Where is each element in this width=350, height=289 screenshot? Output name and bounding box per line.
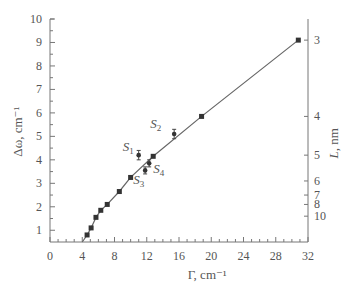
data-points: S1S2S3S4 — [85, 38, 301, 238]
x-tick-label: 28 — [270, 249, 282, 263]
point-label: S2 — [150, 116, 161, 133]
square-marker — [151, 154, 156, 159]
y-tick-label: 3 — [36, 176, 42, 190]
square-marker — [117, 189, 122, 194]
fit-line — [82, 40, 298, 242]
y-tick-label: 2 — [36, 200, 42, 214]
x-tick-label: 0 — [47, 249, 53, 263]
x-tick-label: 12 — [141, 249, 153, 263]
point-label: S1 — [123, 139, 134, 156]
circle-marker — [172, 132, 177, 137]
y2-tick-label: 4 — [314, 109, 320, 123]
square-marker — [89, 225, 94, 230]
square-marker — [85, 232, 90, 237]
y-tick-label: 7 — [36, 82, 42, 96]
square-marker — [105, 202, 110, 207]
x-tick-label: 32 — [302, 249, 314, 263]
x-tick-label: 4 — [79, 249, 85, 263]
x-tick-label: 20 — [205, 249, 217, 263]
circle-marker — [136, 153, 141, 158]
square-marker — [296, 38, 301, 43]
square-marker — [93, 215, 98, 220]
y2-tick-label: 5 — [314, 148, 320, 162]
y-tick-label: 1 — [36, 223, 42, 237]
y-tick-label: 10 — [30, 12, 42, 26]
y-tick-label: 8 — [36, 59, 42, 73]
point-label: S3 — [133, 172, 145, 189]
x-axis-label: Γ, cm⁻¹ — [188, 267, 227, 282]
y-tick-label: 5 — [36, 129, 42, 143]
y2-tick-label: 10 — [314, 209, 326, 223]
y-tick-label: 4 — [36, 153, 42, 167]
circle-marker — [147, 161, 152, 166]
y2-tick-label: 3 — [314, 33, 320, 47]
y-tick-label: 6 — [36, 106, 42, 120]
point-label: S4 — [153, 161, 165, 178]
y-axis-label: Δω, cm⁻¹ — [10, 107, 25, 157]
x-tick-label: 16 — [173, 249, 185, 263]
x-tick-label: 8 — [112, 249, 118, 263]
y-tick-label: 9 — [36, 35, 42, 49]
circle-marker — [143, 168, 148, 173]
x-tick-label: 24 — [238, 249, 250, 263]
square-marker — [98, 208, 103, 213]
fit-curve — [82, 40, 298, 242]
y2-tick-label: 6 — [314, 174, 320, 188]
chart: 1234567891004812162024283234567810 S1S2S… — [0, 0, 350, 289]
square-marker — [199, 114, 204, 119]
y2-axis-label: L, nm — [326, 128, 341, 159]
axes: 1234567891004812162024283234567810 — [30, 12, 326, 263]
